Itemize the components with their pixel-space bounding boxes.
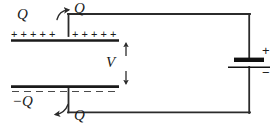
label-charge-top-left: Q: [17, 7, 28, 22]
plate-top-charges-left: + + + + +: [11, 28, 55, 40]
label-charge-top-wire: Q: [74, 1, 85, 16]
plate-top-charges-right: + + + + +: [72, 28, 116, 40]
charge-flow-arrow-bottom: [56, 105, 68, 115]
label-battery-positive: +: [262, 44, 270, 57]
label-charge-bottom-wire: Q: [74, 108, 85, 123]
circuit-drawing: [0, 0, 277, 127]
label-voltage: V: [106, 55, 115, 70]
capacitor-circuit-figure: Q Q −Q Q V + − + + + + + + + + + +: [0, 0, 277, 127]
label-charge-bottom-plate: −Q: [12, 94, 33, 109]
label-battery-negative: −: [262, 66, 270, 79]
charge-flow-arrow-top: [57, 10, 68, 20]
